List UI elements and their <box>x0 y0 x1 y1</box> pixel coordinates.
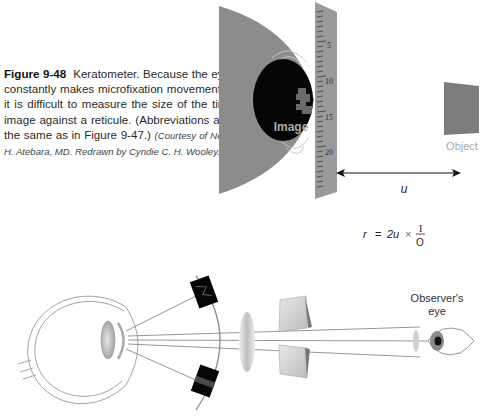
formula-2u: 2u <box>386 228 399 240</box>
patient-cornea <box>118 323 124 359</box>
top-diagram: Image 5 10 15 20 <box>219 2 479 248</box>
prism-bottom <box>279 345 307 378</box>
formula: r = 2u × I O <box>363 223 425 248</box>
crystalline-lens <box>101 321 115 359</box>
patient-eye-cross-section <box>18 296 138 403</box>
observer-label-line1: Observer's <box>411 292 464 304</box>
mire-bottom <box>191 364 219 397</box>
ruler-label-5: 5 <box>327 41 331 50</box>
light-rays <box>126 293 432 381</box>
prism-top <box>279 296 307 332</box>
formula-r: r <box>363 228 368 240</box>
bottom-diagram: Observer's eye <box>18 275 474 410</box>
object-block <box>444 82 479 135</box>
ruler-label-15: 15 <box>325 113 333 122</box>
formula-numerator: I <box>419 223 422 234</box>
observer-eye-icon <box>428 328 474 355</box>
keratometer-illustration: Image 5 10 15 20 <box>0 0 490 420</box>
formula-denominator: O <box>416 237 424 248</box>
image-label: Image <box>274 120 309 134</box>
distance-label-u: u <box>401 182 408 196</box>
mire-top <box>190 275 218 308</box>
object-label: Object <box>446 140 478 152</box>
ruler-label-10: 10 <box>325 77 333 86</box>
objective-lens <box>239 312 255 372</box>
observer-label-line2: eye <box>428 305 446 317</box>
formula-equals: = <box>375 228 381 240</box>
eyepiece-lens <box>413 330 419 352</box>
formula-times: × <box>405 228 411 240</box>
ruler-label-20: 20 <box>325 148 333 157</box>
